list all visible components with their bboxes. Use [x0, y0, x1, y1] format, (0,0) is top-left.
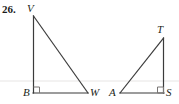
geometry-figure: 26. V B W A T S [0, 0, 179, 104]
vertex-label-W: W [90, 87, 99, 98]
vertex-label-S: S [166, 87, 172, 98]
vertex-label-V: V [27, 3, 34, 14]
vertex-label-T: T [157, 24, 163, 35]
right-angle-marker-S [158, 87, 164, 93]
vertex-label-B: B [23, 87, 30, 98]
triangle-TAS [120, 38, 164, 93]
vertex-label-A: A [109, 87, 116, 98]
segment-AT [120, 38, 164, 93]
right-angle-marker-B [34, 87, 40, 93]
right-angle-marker-S-inner [158, 87, 164, 93]
